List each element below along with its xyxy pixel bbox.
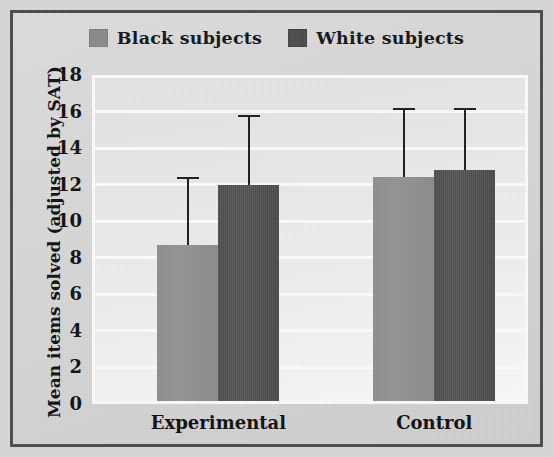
y-tick-label-4: 4 bbox=[69, 322, 82, 340]
plot-border-left bbox=[92, 75, 95, 404]
legend-swatch-icon-white-subjects bbox=[288, 29, 307, 47]
y-axis-title: Mean items solved (adjusted by SAT) bbox=[44, 78, 64, 418]
gridline-14 bbox=[92, 147, 528, 150]
error-bar-stem-experimental-1 bbox=[248, 115, 250, 184]
error-bar-stem-control-0 bbox=[403, 108, 405, 177]
legend-label-black-subjects: Black subjects bbox=[117, 28, 262, 48]
y-tick-label-8: 8 bbox=[69, 249, 82, 267]
x-category-label-experimental: Experimental bbox=[151, 412, 286, 433]
legend-label-white-subjects: White subjects bbox=[316, 28, 464, 48]
legend-entry-white-subjects: White subjects bbox=[288, 28, 464, 48]
x-category-label-control: Control bbox=[396, 412, 472, 433]
plot-border-top bbox=[92, 75, 528, 78]
x-axis-baseline bbox=[92, 401, 528, 404]
figure-page: Black subjects White subjects Mean items… bbox=[0, 0, 553, 457]
legend-entry-black-subjects: Black subjects bbox=[89, 28, 262, 48]
bar-experimental-white-subjects bbox=[218, 185, 279, 404]
y-tick-label-0: 0 bbox=[69, 395, 82, 413]
bar-experimental-black-subjects bbox=[157, 245, 218, 404]
error-bar-cap-control-1 bbox=[454, 108, 476, 110]
plot-area-wrapper: 024681012141618 bbox=[92, 75, 528, 404]
y-tick-label-6: 6 bbox=[69, 285, 82, 303]
chart-legend: Black subjects White subjects bbox=[0, 28, 553, 48]
gridline-16 bbox=[92, 110, 528, 113]
error-bar-stem-experimental-0 bbox=[187, 177, 189, 245]
error-bar-stem-control-1 bbox=[464, 108, 466, 170]
bar-control-white-subjects bbox=[434, 170, 495, 404]
bar-control-black-subjects bbox=[373, 177, 434, 404]
legend-swatch-icon-black-subjects bbox=[89, 29, 108, 47]
error-bar-cap-control-0 bbox=[393, 108, 415, 110]
error-bar-cap-experimental-0 bbox=[177, 177, 199, 179]
plot-border-right bbox=[525, 75, 528, 404]
error-bar-cap-experimental-1 bbox=[238, 115, 260, 117]
y-tick-label-2: 2 bbox=[69, 358, 82, 376]
